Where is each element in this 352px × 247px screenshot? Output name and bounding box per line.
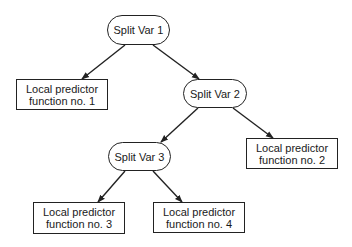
edge-split1-to-split2 bbox=[153, 45, 199, 79]
split-node-2: Split Var 2 bbox=[183, 79, 247, 108]
leaf-node-1: Local predictor function no. 1 bbox=[16, 79, 108, 110]
split-node-3: Split Var 3 bbox=[108, 142, 171, 171]
split-node-1-label: Split Var 1 bbox=[114, 24, 164, 36]
split-node-1: Split Var 1 bbox=[107, 15, 170, 45]
edge-split2-to-leaf2 bbox=[233, 108, 273, 138]
leaf-node-4-line2: function no. 4 bbox=[166, 218, 232, 230]
leaf-node-4-line1: Local predictor bbox=[163, 206, 235, 218]
leaf-node-1-line1: Local predictor bbox=[26, 83, 98, 95]
edge-split2-to-split3 bbox=[161, 108, 198, 142]
decision-tree-diagram: Split Var 1 Split Var 2 Split Var 3 Loca… bbox=[0, 0, 352, 247]
edge-split1-to-leaf1 bbox=[82, 45, 125, 79]
leaf-node-2-line2: function no. 2 bbox=[259, 154, 325, 166]
leaf-node-3-line1: Local predictor bbox=[43, 206, 115, 218]
edge-split3-to-leaf4 bbox=[153, 171, 182, 202]
edge-split3-to-leaf3 bbox=[98, 171, 125, 202]
leaf-node-3: Local predictor function no. 3 bbox=[33, 202, 125, 234]
leaf-node-2: Local predictor function no. 2 bbox=[246, 138, 338, 169]
leaf-node-3-line2: function no. 3 bbox=[46, 218, 112, 230]
leaf-node-1-line2: function no. 1 bbox=[29, 95, 95, 107]
leaf-node-4: Local predictor function no. 4 bbox=[153, 202, 245, 233]
split-node-2-label: Split Var 2 bbox=[190, 88, 240, 100]
leaf-node-2-line1: Local predictor bbox=[256, 142, 328, 154]
split-node-3-label: Split Var 3 bbox=[115, 151, 165, 163]
